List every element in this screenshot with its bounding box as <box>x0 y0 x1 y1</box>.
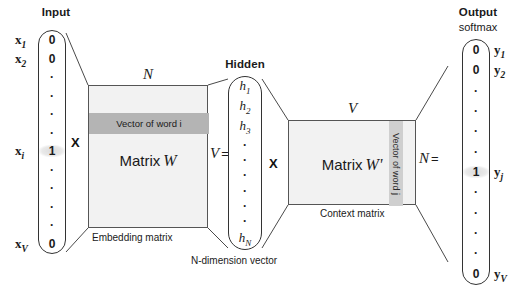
output-vector-label-1: y1 <box>494 42 505 60</box>
output-title: Output <box>445 6 511 18</box>
input-vector-cells: 00····1····0 <box>39 31 65 253</box>
input-vector-cell: 0 <box>39 238 65 250</box>
input-vector-cell: · <box>39 108 65 120</box>
matrix-w-prime-label: Matrix <box>322 156 363 173</box>
input-vector-label-2: x2 <box>15 51 26 69</box>
word2vec-architecture-diagram: Input 00····1····0 x1x2xixV X Vector of … <box>0 0 519 292</box>
hidden-unit-1: h1 <box>229 79 261 96</box>
hidden-vector-cell: · <box>229 215 261 227</box>
input-vector-pill: 00····1····0 <box>38 30 66 254</box>
input-vector-cell: · <box>39 90 65 102</box>
input-vector-label-V: xV <box>15 236 28 254</box>
output-vector-cells: 00····1····0 <box>463 40 489 284</box>
matrix-w-title: MatrixW <box>89 152 207 170</box>
matrix-w-name: W <box>160 152 176 169</box>
matrix-w-prime-name: W' <box>363 156 383 173</box>
hidden-unit-N: hN <box>229 231 261 248</box>
hidden-title: Hidden <box>206 58 284 70</box>
output-vector-cell: · <box>463 207 489 219</box>
matrix-w-prime-dim-right-letter: N <box>419 150 429 166</box>
hidden-unit-2: h2 <box>229 99 261 116</box>
output-vector-label-j: yj <box>494 164 503 182</box>
output-vector-cell: 1 <box>463 166 489 178</box>
hidden-unit-3: h3 <box>229 119 261 136</box>
output-vector-cell: 0 <box>463 44 489 56</box>
hidden-vector-cell: · <box>229 139 261 151</box>
output-vector-cell: · <box>463 85 489 97</box>
output-vector-cell: · <box>463 186 489 198</box>
output-vector-cell: · <box>463 227 489 239</box>
input-vector-cell: · <box>39 127 65 139</box>
hidden-vector-cell: · <box>229 169 261 181</box>
matrix-w-dim-right-letter: V <box>210 145 219 161</box>
input-vector-cell: 0 <box>39 53 65 65</box>
input-vector-cell: 1 <box>39 145 65 157</box>
hidden-vector-cell: · <box>229 154 261 166</box>
input-title: Input <box>18 6 94 18</box>
hidden-vector-cell: · <box>229 200 261 212</box>
input-vector-cell: · <box>39 164 65 176</box>
output-vector-label-V: yV <box>494 266 507 284</box>
output-vector-cell: 0 <box>463 268 489 280</box>
hidden-vector-cell: · <box>229 185 261 197</box>
matrix-w-dim-right: V= <box>210 145 229 162</box>
output-vector-cell: · <box>463 125 489 137</box>
output-vector-cell: · <box>463 146 489 158</box>
output-vector-cell: 0 <box>463 64 489 76</box>
matrix-w-prime-dim-right: N= <box>419 150 439 167</box>
output-vector-pill: 00····1····0 <box>462 39 490 285</box>
multiply-operator-1: X <box>71 135 80 150</box>
matrix-w-prime: Vector of word j MatrixW' <box>288 120 416 205</box>
matrix-w-prime-equals: = <box>429 151 439 166</box>
context-matrix-caption: Context matrix <box>320 208 384 219</box>
matrix-w-prime-dim-top: V <box>348 100 357 117</box>
matrix-w: Vector of word i MatrixW <box>88 85 208 228</box>
embedding-matrix-caption: Embedding matrix <box>92 232 173 243</box>
matrix-w-dim-top: N <box>143 66 153 83</box>
input-vector-label-i: xi <box>15 143 24 161</box>
matrix-w-label: Matrix <box>119 152 160 169</box>
matrix-w-prime-title: MatrixW' <box>289 156 415 174</box>
output-vector-cell: · <box>463 247 489 259</box>
output-subtitle-softmax: softmax <box>445 21 511 33</box>
input-vector-cell: · <box>39 201 65 213</box>
input-vector-cell: · <box>39 182 65 194</box>
multiply-operator-2: X <box>269 156 278 171</box>
input-vector-cell: 0 <box>39 34 65 46</box>
output-vector-cell: · <box>463 105 489 117</box>
hidden-vector-pill: h1h2h3······hN <box>228 76 262 250</box>
vector-of-word-i-band: Vector of word i <box>89 113 209 134</box>
input-vector-cell: · <box>39 219 65 231</box>
hidden-vector-cells: h1h2h3······hN <box>229 77 261 249</box>
n-dimension-vector-caption: N-dimension vector <box>191 255 277 266</box>
output-vector-label-2: y2 <box>494 62 505 80</box>
input-vector-label-1: x1 <box>15 32 26 50</box>
input-vector-cell: · <box>39 71 65 83</box>
